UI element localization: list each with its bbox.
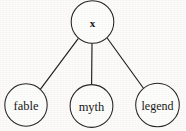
edge-root-to-legend bbox=[108, 39, 145, 90]
edge-root-to-fable bbox=[41, 39, 79, 89]
node-root[interactable]: x bbox=[71, 1, 114, 44]
node-myth-label: myth bbox=[79, 100, 105, 114]
tree-diagram-canvas: x fable myth legend bbox=[0, 0, 186, 131]
node-legend[interactable]: legend bbox=[136, 83, 180, 127]
node-myth[interactable]: myth bbox=[70, 85, 113, 128]
node-fable-label: fable bbox=[14, 99, 39, 113]
node-root-label: x bbox=[90, 17, 96, 29]
node-fable[interactable]: fable bbox=[5, 84, 47, 126]
node-legend-label: legend bbox=[142, 99, 174, 113]
edge-group bbox=[41, 39, 145, 90]
tree-diagram-svg: x fable myth legend bbox=[0, 0, 186, 131]
